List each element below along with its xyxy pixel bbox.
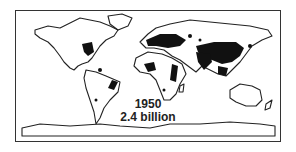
density-south-asia: [196, 52, 212, 70]
population-label: 2.4 billion: [0, 111, 296, 124]
antarctica-outline: [22, 122, 275, 136]
density-west-africa: [144, 62, 156, 72]
greenland-outline: [108, 14, 132, 30]
density-east-us: [82, 42, 94, 56]
north-america-outline: [35, 18, 118, 70]
density-brazil: [108, 80, 118, 90]
density-europe: [146, 34, 186, 48]
population-density-areas: [82, 34, 252, 102]
density-east-africa: [170, 64, 178, 82]
world-map: [0, 0, 296, 152]
